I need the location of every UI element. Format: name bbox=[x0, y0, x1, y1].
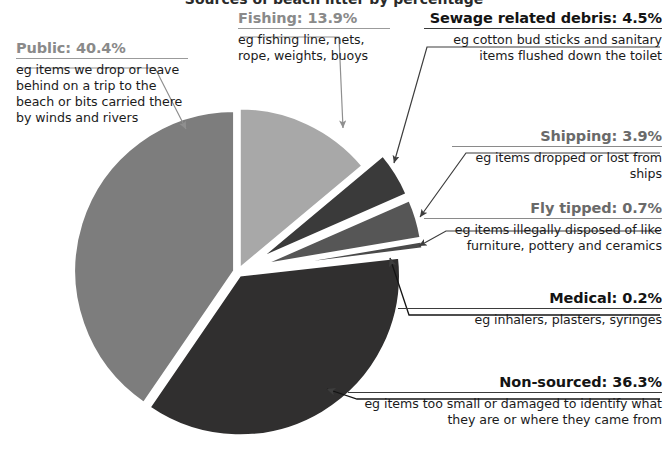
callout-rule-sewage bbox=[424, 28, 662, 29]
callout-shipping[interactable]: Shipping: 3.9% eg items dropped or lost … bbox=[452, 128, 662, 182]
callout-nonsourced[interactable]: Non-sourced: 36.3% eg items too small or… bbox=[348, 374, 662, 428]
callout-fishing[interactable]: Fishing: 13.9% eg fishing line, nets, ro… bbox=[238, 10, 390, 64]
callout-description-fishing: eg fishing line, nets, rope, weights, bu… bbox=[238, 32, 390, 64]
callout-public[interactable]: Public: 40.4% eg items we drop or leave … bbox=[16, 40, 188, 126]
callout-description-sewage: eg cotton bud sticks and sanitary items … bbox=[424, 32, 662, 64]
callout-rule-public bbox=[16, 58, 188, 59]
callout-title-sewage: Sewage related debris: 4.5% bbox=[424, 10, 662, 26]
callout-rule-flytipped bbox=[424, 218, 662, 219]
callout-rule-nonsourced bbox=[348, 392, 662, 393]
callout-title-flytipped: Fly tipped: 0.7% bbox=[424, 200, 662, 216]
chart-canvas: Sources of beach litter by percentage bbox=[0, 0, 668, 472]
callout-rule-medical bbox=[398, 308, 662, 309]
callout-flytipped[interactable]: Fly tipped: 0.7% eg items illegally disp… bbox=[424, 200, 662, 254]
callout-rule-shipping bbox=[452, 146, 662, 147]
callout-sewage[interactable]: Sewage related debris: 4.5% eg cotton bu… bbox=[424, 10, 662, 64]
callout-medical[interactable]: Medical: 0.2% eg inhalers, plasters, syr… bbox=[398, 290, 662, 328]
callout-description-flytipped: eg items illegally disposed of like furn… bbox=[424, 222, 662, 254]
callout-description-shipping: eg items dropped or lost from ships bbox=[452, 150, 662, 182]
callout-title-fishing: Fishing: 13.9% bbox=[238, 10, 390, 26]
callout-title-public: Public: 40.4% bbox=[16, 40, 188, 56]
callout-title-shipping: Shipping: 3.9% bbox=[452, 128, 662, 144]
callout-title-medical: Medical: 0.2% bbox=[398, 290, 662, 306]
callout-description-nonsourced: eg items too small or damaged to identif… bbox=[348, 396, 662, 428]
callout-description-public: eg items we drop or leave behind on a tr… bbox=[16, 62, 188, 125]
callout-description-medical: eg inhalers, plasters, syringes bbox=[398, 312, 662, 328]
callout-title-nonsourced: Non-sourced: 36.3% bbox=[348, 374, 662, 390]
callout-rule-fishing bbox=[238, 28, 390, 29]
